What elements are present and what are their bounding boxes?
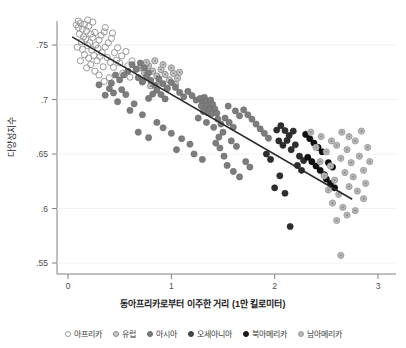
y-tick: .65 — [36, 149, 57, 159]
data-point — [290, 128, 296, 134]
data-point — [247, 164, 253, 170]
data-point — [146, 95, 152, 101]
x-tick: 0 — [66, 274, 71, 291]
legend-label: 유럽 — [122, 328, 136, 339]
data-point — [96, 82, 102, 88]
data-point — [115, 99, 121, 105]
svg-text:2: 2 — [272, 281, 277, 291]
data-point — [225, 103, 231, 109]
legend-item-2: 아시아 — [147, 328, 177, 339]
svg-text:.7: .7 — [41, 95, 48, 105]
data-point — [211, 124, 217, 130]
data-point — [100, 64, 106, 70]
data-point — [102, 24, 108, 30]
legend: 아프리카유럽아시아오세아니아북아메리카남아메리카 — [0, 328, 406, 339]
data-point — [160, 125, 166, 131]
svg-text:3: 3 — [376, 281, 381, 291]
data-point — [236, 174, 242, 180]
data-point — [221, 153, 227, 159]
scatter-plot: .75.7.65.6.550123 — [0, 0, 406, 348]
legend-marker-icon — [298, 331, 304, 337]
data-point — [224, 162, 230, 168]
data-point — [123, 91, 129, 97]
trend-line — [72, 37, 352, 199]
data-point — [110, 90, 116, 96]
data-point — [168, 130, 174, 136]
data-point — [263, 151, 269, 157]
data-point — [162, 96, 168, 102]
legend-item-3: 오세아니아 — [188, 328, 232, 339]
data-point — [139, 112, 145, 118]
svg-text:0: 0 — [66, 281, 71, 291]
data-point — [216, 134, 222, 140]
svg-text:.6: .6 — [41, 204, 48, 214]
data-point — [94, 58, 100, 64]
data-point — [284, 137, 290, 143]
data-point — [96, 72, 102, 78]
data-point — [81, 52, 87, 58]
data-point — [131, 101, 137, 107]
legend-label: 아프리카 — [74, 328, 102, 339]
data-point — [102, 92, 108, 98]
legend-item-1: 유럽 — [113, 328, 136, 339]
data-point — [243, 159, 249, 165]
data-point — [265, 135, 271, 141]
legend-marker-icon — [147, 331, 153, 337]
data-point — [214, 110, 220, 116]
series-0 — [73, 17, 139, 85]
data-point — [77, 58, 83, 64]
data-point — [277, 173, 283, 179]
x-tick: 1 — [169, 274, 174, 291]
y-tick: .75 — [36, 40, 57, 50]
data-point — [267, 156, 273, 162]
data-point — [195, 115, 201, 121]
data-point — [127, 107, 133, 113]
data-point — [110, 64, 116, 70]
legend-marker-icon — [188, 331, 194, 337]
data-point — [135, 129, 141, 135]
data-point — [203, 119, 209, 125]
data-point — [146, 135, 152, 141]
legend-label: 아시아 — [156, 328, 177, 339]
x-tick: 3 — [376, 274, 381, 291]
legend-marker-icon — [113, 331, 119, 337]
data-point — [292, 142, 298, 148]
data-point — [85, 17, 91, 23]
y-axis-title: 다양성지수 — [5, 101, 18, 173]
data-point — [191, 151, 197, 157]
data-point — [199, 156, 205, 162]
data-point — [181, 94, 187, 100]
data-point — [217, 145, 223, 151]
data-point — [287, 223, 293, 229]
y-tick: .7 — [41, 95, 57, 105]
svg-text:.65: .65 — [36, 149, 48, 159]
legend-item-4: 북아메리카 — [243, 328, 287, 339]
data-point — [154, 119, 160, 125]
data-point — [272, 185, 278, 191]
data-point — [115, 45, 121, 51]
legend-item-5: 남아메리카 — [298, 328, 342, 339]
y-tick: .6 — [41, 204, 57, 214]
data-point — [187, 141, 193, 147]
svg-text:.55: .55 — [36, 258, 48, 268]
data-point — [228, 138, 234, 144]
data-point — [84, 65, 90, 71]
legend-marker-icon — [65, 331, 71, 337]
legend-item-0: 아프리카 — [65, 328, 102, 339]
data-point — [230, 168, 236, 174]
legend-label: 오세아니아 — [197, 328, 232, 339]
svg-text:1: 1 — [169, 281, 174, 291]
data-point — [282, 190, 288, 196]
data-point — [92, 68, 98, 74]
data-point — [179, 136, 185, 142]
data-point — [133, 66, 139, 72]
chart-root: .75.7.65.6.550123 다양성지수 동아프리카로부터 이주한 거리 … — [0, 0, 406, 348]
svg-text:.75: .75 — [36, 40, 48, 50]
data-point — [173, 147, 179, 153]
legend-label: 북아메리카 — [252, 328, 287, 339]
data-point — [233, 143, 239, 149]
x-tick: 2 — [272, 274, 277, 291]
x-axis-title: 동아프리카로부터 이주한 거리 (1만 킬로미터) — [0, 297, 406, 310]
data-point — [127, 74, 133, 80]
data-point — [112, 72, 118, 78]
